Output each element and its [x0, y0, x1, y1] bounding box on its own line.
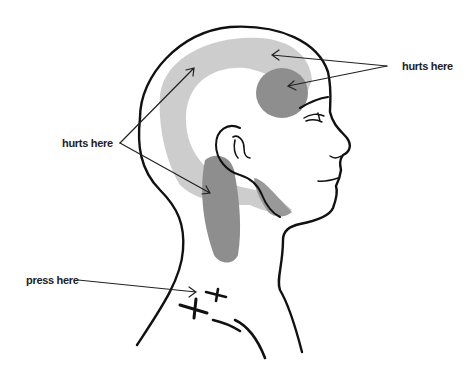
eye [304, 113, 324, 122]
pain-zone-temple [256, 68, 308, 118]
trigger-point-x-small [206, 289, 226, 301]
label-trigger-point: press here [26, 274, 79, 286]
head-pain-diagram: hurts here hurts here press here [0, 0, 470, 381]
label-side-of-head: hurts here [62, 137, 113, 149]
mouth [318, 178, 338, 181]
ear-inner [233, 136, 250, 158]
arrow-press [78, 280, 196, 297]
shoulder-line-2 [235, 320, 265, 358]
trigger-point-x-large [180, 299, 207, 318]
nostril [330, 156, 341, 158]
label-forehead: hurts here [402, 60, 453, 72]
pain-zone-neck [202, 156, 240, 263]
